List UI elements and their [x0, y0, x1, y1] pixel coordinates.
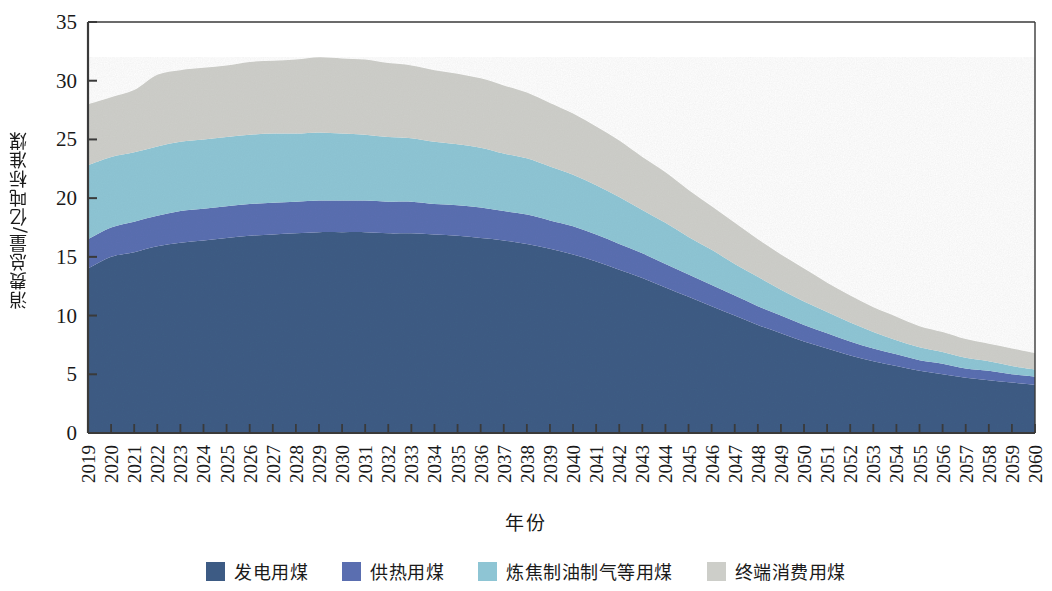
legend-item[interactable]: 供热用煤 [342, 558, 444, 584]
x-tick-label: 2057 [956, 445, 977, 483]
x-tick-label: 2035 [448, 445, 469, 483]
x-tick-label: 2047 [725, 445, 746, 483]
y-tick-label: 10 [56, 304, 77, 328]
x-tick-label: 2028 [286, 445, 307, 483]
x-tick-label: 2031 [355, 445, 376, 483]
x-tick-label: 2050 [794, 445, 815, 483]
y-tick-label: 20 [56, 186, 77, 210]
y-tick-label: 25 [56, 127, 77, 151]
x-tick-label: 2023 [170, 445, 191, 483]
x-tick-label: 2048 [748, 445, 769, 483]
y-tick-label: 0 [67, 421, 78, 445]
x-tick-label: 2045 [679, 445, 700, 483]
x-tick-label: 2058 [979, 445, 1000, 483]
x-tick-label: 2049 [771, 445, 792, 483]
x-tick-label: 2051 [817, 445, 838, 483]
x-tick-label: 2034 [424, 445, 445, 484]
legend-item-label: 供热用煤 [370, 558, 444, 584]
x-tick-label: 2030 [332, 445, 353, 483]
legend-item-label: 发电用煤 [234, 558, 308, 584]
chart-plot-area: 0510152025303520192020202120222023202420… [0, 0, 1052, 510]
x-axis-title-label: 年份 [505, 512, 547, 534]
legend-item-label: 炼焦制油制气等用煤 [506, 558, 673, 584]
x-tick-label: 2025 [217, 445, 238, 483]
y-tick-label: 15 [56, 245, 77, 269]
legend-swatch-icon [342, 562, 361, 581]
x-tick-label: 2039 [540, 445, 561, 483]
x-axis-title: 年份 [0, 508, 1052, 535]
legend-item[interactable]: 发电用煤 [206, 558, 308, 584]
stacked-area-chart-figure: 消费总量/亿吨标准煤 05101520253035201920202021202… [0, 0, 1052, 591]
x-tick-label: 2046 [702, 445, 723, 483]
x-tick-label: 2033 [401, 445, 422, 483]
x-tick-label: 2040 [563, 445, 584, 483]
x-tick-label: 2032 [378, 445, 399, 483]
x-tick-label: 2022 [147, 445, 168, 483]
area-series-group [88, 57, 1035, 433]
x-tick-label: 2042 [609, 445, 630, 483]
x-tick-label: 2055 [910, 445, 931, 483]
x-tick-label: 2029 [309, 445, 330, 483]
x-tick-label: 2019 [78, 445, 99, 483]
x-tick-label: 2037 [494, 445, 515, 483]
x-tick-label: 2060 [1025, 445, 1046, 483]
x-tick-label: 2053 [863, 445, 884, 483]
x-tick-label: 2054 [886, 445, 907, 484]
legend-item-label: 终端消费用煤 [735, 558, 846, 584]
x-tick-label: 2020 [101, 445, 122, 483]
y-tick-label: 5 [67, 362, 78, 386]
chart-legend: 发电用煤 供热用煤 炼焦制油制气等用煤 终端消费用煤 [0, 558, 1052, 584]
x-tick-label: 2027 [263, 445, 284, 483]
legend-swatch-icon [206, 562, 225, 581]
x-tick-label: 2059 [1002, 445, 1023, 483]
x-tick-label: 2024 [193, 445, 214, 484]
y-tick-label: 35 [56, 10, 77, 34]
x-tick-label: 2036 [471, 445, 492, 483]
x-tick-label: 2044 [655, 445, 676, 484]
x-tick-label: 2043 [632, 445, 653, 483]
x-tick-label: 2056 [933, 445, 954, 483]
x-tick-label: 2052 [840, 445, 861, 483]
x-tick-label: 2041 [586, 445, 607, 483]
legend-item[interactable]: 炼焦制油制气等用煤 [478, 558, 673, 584]
legend-item[interactable]: 终端消费用煤 [707, 558, 846, 584]
legend-swatch-icon [707, 562, 726, 581]
x-tick-label: 2026 [240, 445, 261, 483]
x-tick-label: 2038 [517, 445, 538, 483]
y-tick-label: 30 [56, 69, 77, 93]
x-tick-label: 2021 [124, 445, 145, 483]
legend-swatch-icon [478, 562, 497, 581]
